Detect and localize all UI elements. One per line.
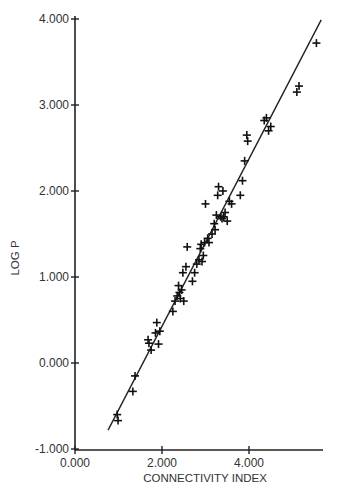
- y-axis: -1.0000.0001.0002.0003.0004.000 LOG P: [9, 12, 79, 456]
- y-tick-label: 2.000: [39, 184, 69, 198]
- plus-marker: [188, 277, 196, 285]
- plus-marker: [243, 131, 251, 139]
- plus-marker: [219, 187, 227, 195]
- plus-marker: [151, 329, 159, 337]
- plus-marker: [312, 39, 320, 47]
- data-points: [113, 39, 320, 425]
- x-tick-label: 0.000: [60, 456, 90, 470]
- y-tick-label: -1.000: [35, 442, 69, 456]
- y-tick-label: 0.000: [39, 356, 69, 370]
- plus-marker: [156, 327, 164, 335]
- plus-marker: [244, 137, 252, 145]
- plus-marker: [236, 191, 244, 199]
- y-tick-label: 1.000: [39, 270, 69, 284]
- x-axis-title: CONNECTIVITY INDEX: [143, 472, 267, 484]
- plus-marker: [114, 417, 122, 425]
- plus-marker: [214, 191, 222, 199]
- x-tick-label: 2.000: [147, 456, 177, 470]
- plus-marker: [215, 183, 223, 191]
- plus-marker: [202, 200, 210, 208]
- plus-marker: [169, 307, 177, 315]
- plus-marker: [155, 340, 163, 348]
- y-axis-ticks: -1.0000.0001.0002.0003.0004.000: [35, 12, 79, 456]
- x-axis: 0.0002.0004.000 CONNECTIVITY INDEX: [60, 446, 323, 484]
- plus-marker: [241, 157, 249, 165]
- y-tick-label: 3.000: [39, 98, 69, 112]
- plus-marker: [153, 319, 161, 327]
- x-tick-label: 4.000: [234, 456, 264, 470]
- y-axis-title: LOG P: [9, 240, 21, 275]
- y-tick-label: 4.000: [39, 12, 69, 26]
- scatter-chart: -1.0000.0001.0002.0003.0004.000 LOG P 0.…: [0, 0, 337, 496]
- plus-marker: [183, 243, 191, 251]
